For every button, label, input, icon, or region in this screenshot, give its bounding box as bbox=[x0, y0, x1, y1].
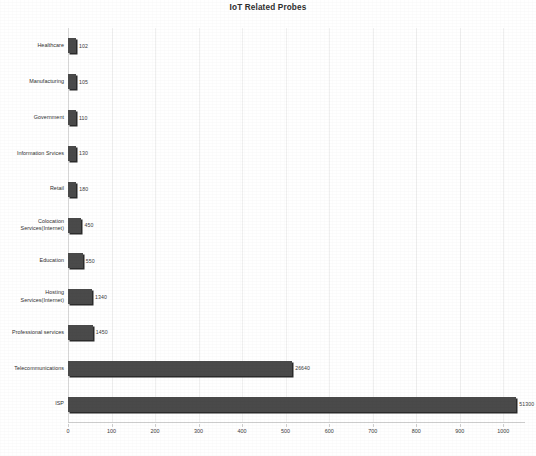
y-axis-category-labels: HealthcareManufacturingGovernmentInforma… bbox=[0, 28, 64, 422]
x-tick-mark-700 bbox=[373, 424, 374, 427]
y-axis-label-professional-services: Professional services bbox=[0, 329, 64, 337]
x-tick-label-500: 500 bbox=[281, 428, 290, 434]
bar-value-label: 26640 bbox=[295, 365, 310, 371]
y-axis-label-information-srvices: Information Srvices bbox=[0, 150, 64, 158]
bar bbox=[68, 325, 93, 340]
bar bbox=[68, 74, 76, 89]
x-tick-mark-900 bbox=[460, 424, 461, 427]
bar-value-label: 110 bbox=[79, 115, 88, 121]
y-axis-label-colocation-services-internet: Colocation Services(Internet) bbox=[0, 218, 64, 233]
chart-title: IoT Related Probes bbox=[0, 3, 536, 12]
bar-value-label: 450 bbox=[84, 222, 93, 228]
x-tick-label-0: 0 bbox=[67, 428, 70, 434]
y-axis-label-isp: ISP bbox=[0, 400, 64, 408]
gridline-900 bbox=[460, 28, 461, 422]
x-tick-mark-1000 bbox=[503, 424, 504, 427]
x-axis-ticks: 01002003004005006007008009001000 bbox=[68, 424, 525, 440]
x-tick-mark-500 bbox=[286, 424, 287, 427]
y-axis-label-education: Education bbox=[0, 257, 64, 265]
x-tick-label-900: 900 bbox=[455, 428, 464, 434]
x-tick-mark-200 bbox=[155, 424, 156, 427]
x-tick-label-300: 300 bbox=[194, 428, 203, 434]
y-axis-label-telecommunications: Telecommunications bbox=[0, 365, 64, 373]
bar-chart: IoT Related Probes HealthcareManufacturi… bbox=[0, 0, 536, 456]
bar bbox=[68, 110, 76, 125]
y-axis-label-manufacturing: Manufacturing bbox=[0, 78, 64, 86]
x-tick-label-800: 800 bbox=[412, 428, 421, 434]
bar-value-label: 105 bbox=[79, 79, 88, 85]
y-axis-label-hosting-services-internet: Hosting Services(Internet) bbox=[0, 289, 64, 304]
x-tick-mark-600 bbox=[329, 424, 330, 427]
bar-value-label: 180 bbox=[79, 186, 88, 192]
bar bbox=[68, 38, 76, 53]
x-tick-label-400: 400 bbox=[238, 428, 247, 434]
x-tick-mark-400 bbox=[242, 424, 243, 427]
bar-value-label: 550 bbox=[86, 258, 95, 264]
gridline-1000 bbox=[503, 28, 504, 422]
x-tick-label-1000: 1000 bbox=[497, 428, 509, 434]
y-axis-label-retail: Retail bbox=[0, 185, 64, 193]
bar bbox=[68, 182, 76, 197]
bar bbox=[68, 253, 83, 268]
bar bbox=[68, 146, 76, 161]
bar bbox=[68, 218, 81, 233]
plot-area: 102105110130180450550134014502664051300 bbox=[68, 28, 525, 422]
bar bbox=[68, 289, 92, 304]
x-tick-label-200: 200 bbox=[151, 428, 160, 434]
bar-value-label: 1450 bbox=[96, 329, 108, 335]
x-tick-mark-800 bbox=[416, 424, 417, 427]
bar bbox=[68, 397, 516, 412]
x-tick-label-600: 600 bbox=[325, 428, 334, 434]
gridline-700 bbox=[373, 28, 374, 422]
x-tick-mark-300 bbox=[199, 424, 200, 427]
gridline-800 bbox=[416, 28, 417, 422]
x-axis-line bbox=[68, 422, 525, 423]
bar bbox=[68, 361, 292, 376]
y-axis-label-government: Government bbox=[0, 114, 64, 122]
x-tick-label-100: 100 bbox=[107, 428, 116, 434]
bar-value-label: 51300 bbox=[519, 401, 534, 407]
x-tick-mark-100 bbox=[112, 424, 113, 427]
bar-value-label: 1340 bbox=[95, 294, 107, 300]
x-tick-mark-0 bbox=[68, 424, 69, 427]
bar-value-label: 130 bbox=[79, 150, 88, 156]
y-axis-label-healthcare: Healthcare bbox=[0, 42, 64, 50]
bar-value-label: 102 bbox=[79, 43, 88, 49]
gridline-600 bbox=[329, 28, 330, 422]
x-tick-label-700: 700 bbox=[368, 428, 377, 434]
